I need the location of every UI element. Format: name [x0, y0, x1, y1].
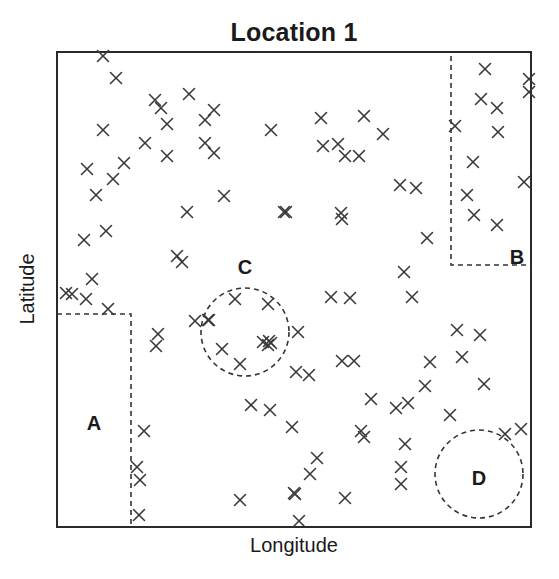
x-marker-icon: [354, 151, 365, 162]
x-marker-icon: [492, 220, 503, 231]
x-marker-icon: [378, 129, 389, 140]
region-label: C: [238, 256, 252, 278]
x-marker-icon: [67, 289, 78, 300]
x-marker-icon: [468, 157, 479, 168]
region-label: D: [472, 467, 486, 489]
x-marker-icon: [516, 424, 527, 435]
x-marker-icon: [182, 207, 193, 218]
x-marker-icon: [316, 113, 327, 124]
x-marker-icon: [396, 462, 407, 473]
x-marker-icon: [156, 103, 167, 114]
x-marker-icon: [135, 475, 146, 486]
x-marker-icon: [132, 462, 143, 473]
x-marker-icon: [391, 403, 402, 414]
x-marker-icon: [493, 127, 504, 138]
x-marker-icon: [79, 235, 90, 246]
x-marker-icon: [162, 151, 173, 162]
region-b: B: [451, 56, 531, 268]
x-marker-icon: [294, 516, 305, 527]
x-marker-icon: [452, 325, 463, 336]
x-marker-icon: [340, 151, 351, 162]
x-marker-icon: [266, 125, 277, 136]
y-axis-label: Latitude: [16, 253, 39, 324]
x-marker-icon: [98, 125, 109, 136]
x-marker-icon: [492, 103, 503, 114]
x-marker-icon: [235, 359, 246, 370]
x-marker-icon: [333, 139, 344, 150]
x-marker-icon: [519, 177, 530, 188]
x-marker-icon: [366, 394, 377, 405]
x-marker-icon: [230, 294, 241, 305]
x-marker-icon: [81, 294, 92, 305]
x-marker-icon: [420, 381, 431, 392]
x-marker-icon: [462, 190, 473, 201]
x-marker-icon: [209, 148, 220, 159]
x-marker-icon: [103, 304, 114, 315]
x-marker-icon: [177, 257, 188, 268]
x-marker-icon: [304, 370, 315, 381]
x-marker-icon: [326, 292, 337, 303]
x-marker-icon: [235, 495, 246, 506]
region-a: A: [57, 314, 131, 527]
x-axis-label: Longitude: [57, 534, 531, 557]
x-marker-icon: [479, 379, 490, 390]
x-marker-icon: [291, 367, 302, 378]
x-marker-icon: [134, 510, 145, 521]
x-marker-icon: [101, 226, 112, 237]
x-marker-icon: [289, 488, 300, 499]
x-marker-icon: [349, 356, 360, 367]
x-marker-icon: [476, 94, 487, 105]
x-marker-icon: [399, 267, 410, 278]
x-marker-icon: [184, 89, 195, 100]
region-d: D: [435, 430, 523, 518]
x-marker-icon: [279, 207, 290, 218]
x-marker-icon: [217, 344, 228, 355]
data-markers: [61, 51, 535, 527]
x-marker-icon: [305, 469, 316, 480]
scatter-plot: ABCD: [0, 0, 559, 579]
x-marker-icon: [445, 410, 456, 421]
x-marker-icon: [422, 233, 433, 244]
x-marker-icon: [219, 191, 230, 202]
x-marker-icon: [403, 398, 414, 409]
x-marker-icon: [469, 210, 480, 221]
x-marker-icon: [407, 292, 418, 303]
x-marker-icon: [246, 400, 257, 411]
x-marker-icon: [425, 357, 436, 368]
x-marker-icon: [345, 293, 356, 304]
x-marker-icon: [200, 115, 211, 126]
x-marker-icon: [396, 479, 407, 490]
x-marker-icon: [119, 158, 130, 169]
x-marker-icon: [359, 111, 370, 122]
x-marker-icon: [312, 453, 323, 464]
x-marker-icon: [281, 207, 292, 218]
x-marker-icon: [475, 330, 486, 341]
x-marker-icon: [524, 74, 535, 85]
x-marker-icon: [450, 121, 461, 132]
x-marker-icon: [190, 316, 201, 327]
x-marker-icon: [91, 190, 102, 201]
region-label: B: [510, 246, 524, 268]
x-marker-icon: [162, 119, 173, 130]
x-marker-icon: [318, 141, 329, 152]
x-marker-icon: [203, 315, 214, 326]
x-marker-icon: [480, 64, 491, 75]
x-marker-icon: [151, 341, 162, 352]
x-marker-icon: [265, 405, 276, 416]
plot-frame: [57, 52, 531, 527]
x-marker-icon: [457, 352, 468, 363]
x-marker-icon: [400, 439, 411, 450]
x-marker-icon: [111, 73, 122, 84]
x-marker-icon: [87, 274, 98, 285]
x-marker-icon: [337, 356, 348, 367]
x-marker-icon: [411, 183, 422, 194]
x-marker-icon: [139, 426, 150, 437]
x-marker-icon: [108, 174, 119, 185]
x-marker-icon: [263, 299, 274, 310]
x-marker-icon: [287, 422, 298, 433]
x-marker-icon: [337, 214, 348, 225]
x-marker-icon: [395, 180, 406, 191]
region-label: A: [87, 412, 101, 434]
region-overlays: ABCD: [57, 56, 531, 527]
x-marker-icon: [150, 95, 161, 106]
